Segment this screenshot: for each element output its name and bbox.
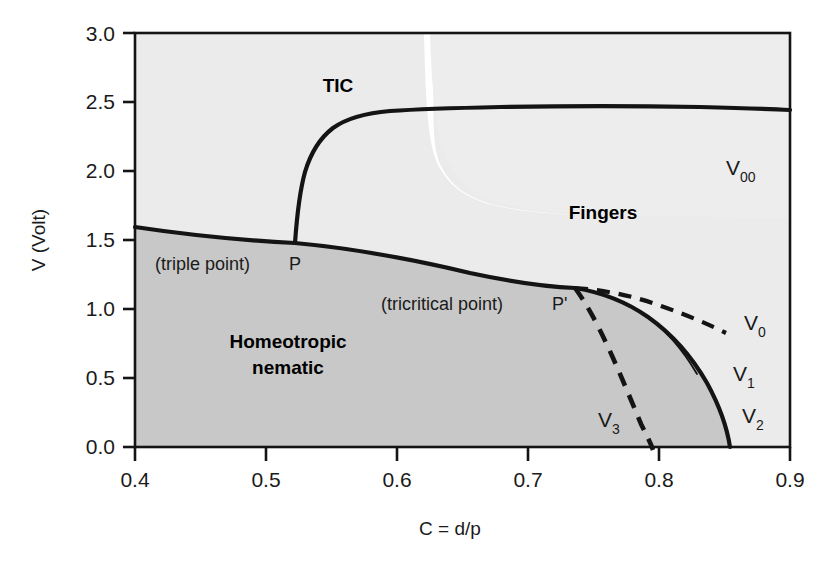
x-tick-label-5: 0.9 xyxy=(775,468,804,491)
curve-label-v2-main: V xyxy=(742,404,756,427)
x-axis-title: C = d/p xyxy=(419,518,481,539)
curve-label-v2-sub: 2 xyxy=(756,417,764,433)
x-tick-label-1: 0.5 xyxy=(251,468,280,491)
annotation-tricritical-point-text: (tricritical point) xyxy=(381,294,503,314)
y-tick-label-0: 0.0 xyxy=(86,435,115,458)
phase-diagram-svg: 0.0 0.5 1.0 1.5 2.0 2.5 3.0 0.4 0.5 0.6 … xyxy=(0,0,834,567)
curve-label-v3-sub: 3 xyxy=(612,421,620,437)
y-tick-label-5: 2.5 xyxy=(86,90,115,113)
annotation-tricritical-point-marker: P' xyxy=(552,294,567,314)
y-tick-label-3: 1.5 xyxy=(86,228,115,251)
annotation-triple-point-marker: P xyxy=(289,254,301,274)
region-label-homeotropic-line1: Homeotropic xyxy=(229,331,347,352)
curve-label-v0-main: V xyxy=(744,311,758,334)
x-tick-label-0: 0.4 xyxy=(120,468,150,491)
x-tick-label-3: 0.7 xyxy=(513,468,542,491)
curve-label-v00-main: V xyxy=(726,156,740,179)
curve-label-v3-main: V xyxy=(598,408,612,431)
y-tick-label-2: 1.0 xyxy=(86,297,115,320)
phase-diagram-figure: 0.0 0.5 1.0 1.5 2.0 2.5 3.0 0.4 0.5 0.6 … xyxy=(0,0,834,567)
x-tick-label-4: 0.8 xyxy=(644,468,673,491)
y-tick-label-6: 3.0 xyxy=(86,22,115,45)
curve-label-v00-sub: 00 xyxy=(740,169,756,185)
y-axis-title: V (Volt) xyxy=(28,209,49,271)
y-tick-label-4: 2.0 xyxy=(86,159,115,182)
y-tick-label-1: 0.5 xyxy=(86,366,115,389)
region-label-tic: TIC xyxy=(323,75,354,96)
region-label-fingers: Fingers xyxy=(569,202,638,223)
annotation-triple-point-text: (triple point) xyxy=(155,254,250,274)
region-label-homeotropic-line2: nematic xyxy=(252,357,324,378)
curve-label-v1-sub: 1 xyxy=(747,375,755,391)
x-tick-label-2: 0.6 xyxy=(382,468,411,491)
curve-label-v0-sub: 0 xyxy=(758,324,766,340)
curve-label-v1-main: V xyxy=(733,362,747,385)
